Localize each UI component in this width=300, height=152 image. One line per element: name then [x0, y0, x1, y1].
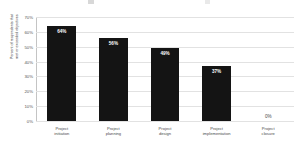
y-axis-tick-label: 20% [24, 89, 33, 94]
cropped-header-artifact [88, 0, 94, 4]
bar-value-label: 64% [47, 29, 76, 34]
y-axis-tick-label: 30% [24, 74, 33, 79]
bar-slot: 37% [202, 17, 231, 121]
x-axis-category-label: Project closure [242, 126, 294, 136]
bar-value-label: 49% [151, 51, 180, 56]
bar-slot: 49% [151, 17, 180, 121]
plot-area: 0%10%20%30%40%50%60%70% 64%56%49%37%0% [36, 17, 294, 121]
gridline: 0% [36, 121, 294, 122]
bar-value-label: 0% [254, 114, 283, 119]
bar-slot: 0% [254, 17, 283, 121]
bar [151, 48, 180, 121]
bar-value-label: 56% [99, 41, 128, 46]
cropped-header-artifact-secondary [205, 0, 210, 4]
x-axis-category-label: Project implementation [191, 126, 243, 136]
bar [47, 26, 76, 121]
y-axis-tick-label: 60% [24, 29, 33, 34]
x-axis-category-label: Project design [139, 126, 191, 136]
bars-layer: 64%56%49%37%0% [36, 17, 294, 121]
y-axis-tick-label: 70% [24, 15, 33, 20]
y-axis-tick-label: 10% [24, 104, 33, 109]
x-axis-category-label: Project planning [88, 126, 140, 136]
bar-chart: Percent of respondents that met or excee… [0, 0, 300, 152]
bar-value-label: 37% [202, 69, 231, 74]
y-axis-tick-label: 0% [27, 119, 33, 124]
y-axis-title: Percent of respondents that met or excee… [10, 0, 19, 85]
bar [202, 66, 231, 121]
y-axis-tick-label: 50% [24, 44, 33, 49]
bar-slot: 64% [47, 17, 76, 121]
y-axis-tick-label: 40% [24, 59, 33, 64]
bar [99, 38, 128, 121]
x-axis-category-label: Project initiation [36, 126, 88, 136]
bar-slot: 56% [99, 17, 128, 121]
